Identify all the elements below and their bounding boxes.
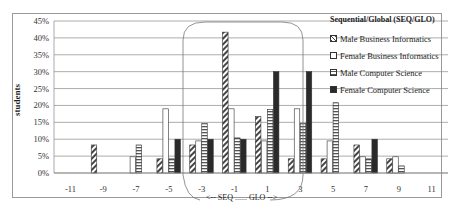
bar (163, 109, 169, 173)
bar (327, 141, 333, 173)
y-tick-label: 20% (33, 100, 49, 110)
bar (130, 157, 136, 173)
bar (235, 138, 241, 173)
bar (196, 141, 202, 173)
legend-item-female-cs: Female Computer Science (330, 81, 445, 98)
bar (360, 157, 366, 173)
striped-swatch-icon (330, 69, 337, 76)
x-tick-label: 7 (364, 184, 368, 194)
bar (175, 139, 181, 173)
y-tick-label: 5% (38, 151, 49, 161)
y-tick-label: 10% (33, 134, 49, 144)
y-tick-label: 0% (38, 168, 49, 178)
bar (208, 139, 214, 173)
seq-glo-annotation: <-- SEQ ...... GLO --> (206, 193, 278, 202)
bar (354, 145, 360, 173)
x-tick-label: 11 (427, 184, 435, 194)
y-axis-ticks: 0%5%10%15%20%25%30%35%40%45% (33, 16, 49, 178)
diagonal-swatch-icon (330, 35, 337, 42)
x-tick-label: 5 (331, 184, 335, 194)
y-tick-label: 40% (33, 33, 49, 43)
bar (91, 145, 97, 173)
x-tick-label: -5 (165, 184, 172, 194)
bar (294, 109, 300, 173)
bar (399, 166, 405, 173)
bar (393, 157, 399, 173)
bar (273, 72, 279, 173)
bar (366, 159, 372, 173)
y-axis-label: students (12, 84, 22, 117)
x-tick-label: -11 (65, 184, 76, 194)
x-tick-label: -7 (133, 184, 140, 194)
bar (387, 159, 393, 173)
y-tick-label: 25% (33, 84, 49, 94)
bar (157, 159, 163, 173)
bar (288, 159, 294, 173)
bar (241, 139, 247, 173)
legend-title: Sequential/Global (SEQ/GLO) (330, 15, 445, 24)
bar (255, 117, 261, 173)
bar (306, 72, 312, 173)
legend-item-female-bi: Female Business Informatics (330, 47, 445, 64)
x-tick-label: 9 (397, 184, 401, 194)
bar (223, 32, 229, 173)
legend: Sequential/Global (SEQ/GLO) Male Busines… (330, 15, 445, 98)
bar (372, 139, 378, 173)
bar (190, 145, 196, 173)
bar (136, 145, 142, 173)
y-tick-label: 15% (33, 117, 49, 127)
white-swatch-icon (330, 52, 337, 59)
y-tick-label: 35% (33, 50, 49, 60)
legend-item-male-bi: Male Business Informatics (330, 30, 445, 47)
y-tick-label: 30% (33, 67, 49, 77)
x-tick-label: -9 (100, 184, 107, 194)
legend-item-male-cs: Male Computer Science (330, 64, 445, 81)
bar (261, 141, 267, 173)
bar (202, 124, 208, 173)
bar (333, 103, 339, 173)
bar (229, 109, 235, 173)
bar (169, 159, 175, 173)
bar (321, 159, 327, 173)
x-tick-label: -3 (198, 184, 205, 194)
solid-swatch-icon (330, 86, 337, 93)
y-tick-label: 45% (33, 16, 49, 26)
bar (267, 109, 273, 173)
